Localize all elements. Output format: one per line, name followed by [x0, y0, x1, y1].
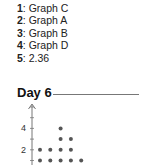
data-dot: [79, 159, 83, 163]
data-dot: [38, 148, 42, 152]
data-dot: [48, 148, 52, 152]
data-dot: [69, 137, 73, 141]
y-tick-labels: 24: [21, 123, 26, 154]
data-dot: [38, 159, 42, 163]
data-dot: [59, 126, 63, 130]
data-dot: [59, 159, 63, 163]
data-dot: [59, 137, 63, 141]
dot-plot: 24: [0, 0, 145, 165]
y-axis: [29, 104, 36, 165]
data-dot: [48, 159, 52, 163]
tick-label: 2: [21, 145, 26, 155]
data-dot: [69, 159, 73, 163]
tick-label: 4: [21, 123, 26, 133]
data-dot: [59, 148, 63, 152]
data-dot: [69, 148, 73, 152]
dots: [38, 126, 83, 162]
